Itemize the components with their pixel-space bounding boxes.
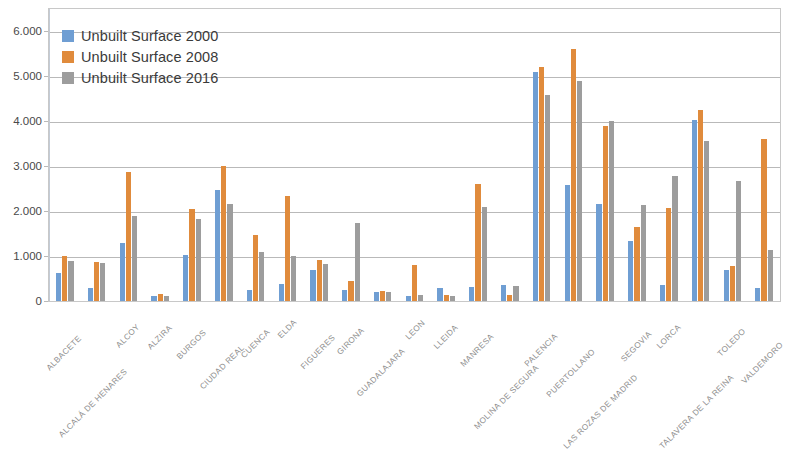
bar-2000 [342, 290, 347, 301]
bar-2016 [132, 216, 137, 301]
bar-2008 [221, 166, 226, 301]
bar-2008 [571, 49, 576, 301]
bar-group [526, 9, 558, 301]
bar-group [748, 9, 780, 301]
bar-2016 [164, 296, 169, 301]
bar-group [589, 9, 621, 301]
bar-2016 [323, 264, 328, 301]
bar-2016 [418, 295, 423, 301]
bar-group [653, 9, 685, 301]
bar-2016 [577, 81, 582, 301]
y-axis: 01.0002.0003.0004.0005.0006.000 [0, 8, 48, 302]
bar-2000 [247, 290, 252, 301]
bar-2000 [628, 241, 633, 301]
bar-group [335, 9, 367, 301]
bar-2000 [215, 190, 220, 301]
y-axis-tick-label: 4.000 [13, 115, 42, 127]
legend-label: Unbuilt Surface 2008 [81, 49, 218, 65]
bar-2016 [450, 296, 455, 301]
legend-swatch-icon [62, 51, 74, 63]
bar-2016 [227, 204, 232, 301]
bar-2000 [692, 120, 697, 301]
bar-2008 [698, 110, 703, 301]
bar-2000 [406, 296, 411, 301]
bar-2000 [469, 287, 474, 301]
x-axis-label: MOLINA DE SEGURA [535, 303, 603, 371]
bar-2000 [88, 288, 93, 301]
bar-group [271, 9, 303, 301]
bar-2016 [513, 286, 518, 301]
bar-group [303, 9, 335, 301]
bar-2016 [196, 219, 201, 301]
chart-legend: Unbuilt Surface 2000Unbuilt Surface 2008… [62, 28, 218, 86]
y-axis-tick-label: 5.000 [13, 70, 42, 82]
bar-2000 [279, 284, 284, 301]
bar-2008 [62, 256, 67, 301]
legend-swatch-icon [62, 30, 74, 42]
bar-2000 [374, 292, 379, 301]
bar-group [240, 9, 272, 301]
legend-label: Unbuilt Surface 2016 [81, 70, 218, 86]
bar-2016 [672, 176, 677, 301]
bar-2000 [501, 285, 506, 301]
bar-2000 [183, 255, 188, 301]
legend-item[interactable]: Unbuilt Surface 2008 [62, 49, 218, 65]
bar-group [367, 9, 399, 301]
x-axis-category-labels: ALBACETEALCALÁ DE HENARESALCOYALZIRABURG… [49, 303, 780, 438]
y-axis-tick-label: 3.000 [13, 160, 42, 172]
x-axis-label: TOLEDO [743, 303, 775, 335]
legend-swatch-icon [62, 72, 74, 84]
y-axis-tick-label: 1.000 [13, 250, 42, 262]
bar-2008 [317, 260, 322, 301]
x-axis-label: LLEIDA [455, 303, 483, 331]
y-axis-tick-label: 0 [36, 295, 42, 307]
bar-group [716, 9, 748, 301]
bar-2016 [68, 261, 73, 301]
x-axis-label: MANRESA [491, 303, 528, 340]
bar-group [558, 9, 590, 301]
bar-group [621, 9, 653, 301]
bar-2008 [94, 262, 99, 301]
bar-2008 [666, 208, 671, 301]
bar-2000 [310, 270, 315, 301]
bar-2008 [634, 227, 639, 301]
bar-2000 [437, 288, 442, 301]
bar-2008 [126, 172, 131, 301]
bar-2008 [253, 235, 258, 301]
bar-2008 [348, 281, 353, 301]
bar-2000 [533, 72, 538, 301]
bar-2008 [475, 184, 480, 301]
x-axis-label: ELDA [294, 303, 316, 325]
bar-2008 [189, 209, 194, 301]
bar-2008 [158, 294, 163, 301]
bar-2008 [444, 295, 449, 301]
bar-2016 [641, 205, 646, 301]
bar-2000 [151, 296, 156, 301]
bar-2000 [660, 285, 665, 301]
legend-item[interactable]: Unbuilt Surface 2016 [62, 70, 218, 86]
bar-2008 [539, 67, 544, 301]
bar-2008 [730, 266, 735, 301]
bar-2016 [100, 263, 105, 301]
bar-2016 [386, 292, 391, 301]
bar-2016 [609, 121, 614, 301]
bar-group [462, 9, 494, 301]
bar-group [494, 9, 526, 301]
legend-label: Unbuilt Surface 2000 [81, 28, 218, 44]
bar-2008 [603, 126, 608, 301]
bar-2016 [768, 250, 773, 301]
bar-2008 [761, 139, 766, 301]
y-axis-tick-label: 2.000 [13, 205, 42, 217]
bar-2000 [596, 204, 601, 301]
bar-2000 [120, 243, 125, 301]
bar-2016 [736, 181, 741, 301]
bar-2000 [724, 270, 729, 301]
legend-item[interactable]: Unbuilt Surface 2000 [62, 28, 218, 44]
bar-2008 [412, 265, 417, 301]
bar-group [430, 9, 462, 301]
bar-2016 [545, 95, 550, 301]
x-axis-label: BURGOS [203, 303, 236, 336]
x-axis-label: ALZIRA [169, 303, 197, 331]
bar-group [685, 9, 717, 301]
